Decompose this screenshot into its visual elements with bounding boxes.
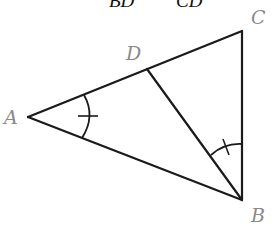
vertex-label-c: C: [251, 6, 266, 28]
denominator-cd: CD: [176, 0, 203, 11]
denominator-bd: BD: [109, 0, 135, 11]
side-ab: [28, 117, 242, 200]
segment-bd: [147, 69, 242, 200]
triangle-diagram: BD CD A B C D: [0, 0, 273, 226]
vertex-label-a: A: [2, 106, 18, 128]
vertex-label-b: B: [250, 204, 265, 226]
vertex-label-d: D: [125, 42, 141, 64]
